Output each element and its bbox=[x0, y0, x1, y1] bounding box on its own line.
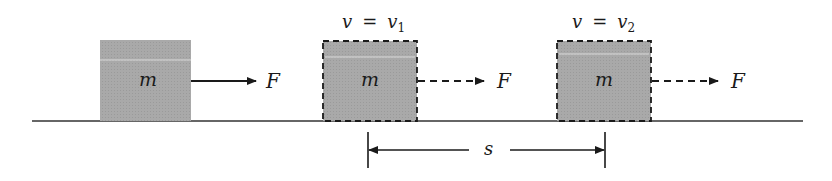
block-position-1: v=v1 m F bbox=[323, 11, 512, 121]
block-initial: m F bbox=[100, 40, 281, 121]
mass-label: m bbox=[361, 68, 379, 90]
velocity-label-1: v=v1 bbox=[342, 11, 405, 35]
mass-label: m bbox=[595, 68, 613, 90]
force-label: F bbox=[730, 69, 746, 93]
velocity-label-2: v=v2 bbox=[572, 11, 635, 35]
displacement-label: s bbox=[484, 138, 493, 159]
work-energy-diagram: m F v=v1 m F v=v2 m F s bbox=[0, 0, 832, 181]
mass-label: m bbox=[139, 68, 157, 90]
displacement-indicator: s bbox=[368, 132, 605, 168]
force-label: F bbox=[496, 69, 512, 93]
force-label: F bbox=[265, 69, 281, 93]
block-position-2: v=v2 m F bbox=[557, 11, 746, 121]
